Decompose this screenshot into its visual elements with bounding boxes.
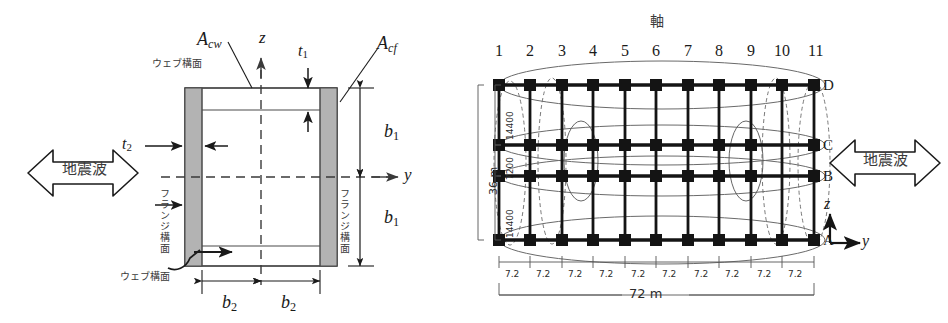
column-label-9: 9 [747,43,755,59]
label-b2-left: b2 [222,293,237,313]
label-b1-upper: b1 [384,122,399,142]
bay-width-4: 7.2 [599,270,613,279]
column-envelope-dashed [494,78,830,245]
bay-width-10: 7.2 [788,270,802,279]
figure-root: 地震波 Acw Acf t1 t2 b1 b1 b2 b2 z y ウェブ構面 … [0,0,948,323]
floor-ellipses [499,61,825,264]
flange-plane-right-label: フランジ構面 [338,188,348,266]
axis-y-label-right: y [862,233,869,249]
seismic-wave-label-left: 地震波 [62,162,107,177]
height-segment-2-label: 7200 [506,157,515,180]
column-label-10: 10 [774,43,790,59]
label-t2: t2 [122,136,132,153]
column-label-1: 1 [495,43,503,59]
web-plane-bottom-label: ウェブ構面 [120,272,170,282]
column-label-6: 6 [652,43,660,59]
width-total-label: 72 m [629,287,662,300]
row-label-D: D [823,78,834,93]
column-label-7: 7 [684,43,692,59]
web-plane-top-label: ウェブ構面 [152,59,202,69]
bay-width-1: 7.2 [505,270,519,279]
bay-width-3: 7.2 [568,270,582,279]
column-lines [499,85,814,240]
frame-grid-figure: 軸 1 2 3 4 5 6 7 8 9 10 11 D C B A 36 m 1… [474,0,948,323]
row-label-A: A [823,233,834,248]
column-label-8: 8 [715,43,723,59]
row-label-B: B [823,169,833,184]
height-segment-3-label: 14400 [506,209,515,238]
label-b1-lower: b1 [384,208,399,228]
bay-width-2: 7.2 [536,270,550,279]
label-t1: t1 [298,43,308,60]
height-total-label: 36 m [488,167,499,195]
column-label-4: 4 [589,43,597,59]
axis-z-label-left: z [259,29,266,46]
label-acw: Acw [197,30,222,50]
bay-width-8: 7.2 [725,270,739,279]
cross-section-figure: 地震波 Acw Acf t1 t2 b1 b1 b2 b2 z y ウェブ構面 … [0,0,474,323]
column-label-2: 2 [526,43,534,59]
axis-y-label-left: y [404,166,412,183]
bay-width-7: 7.2 [694,270,708,279]
leader-acf [340,48,378,102]
column-label-3: 3 [558,43,566,59]
seismic-wave-label-right: 地震波 [863,153,908,168]
label-b2-right: b2 [281,293,296,313]
axis-header-label: 軸 [650,14,664,28]
leader-acw [228,42,252,88]
bay-width-6: 7.2 [662,270,676,279]
row-label-C: C [823,138,833,153]
label-acf: Acf [377,34,397,54]
flange-plane-left-label: フランジ構面 [158,188,168,266]
axis-indicator [830,214,860,243]
axis-z-label-right: z [824,196,830,212]
height-segment-1-label: 14400 [506,111,515,140]
bay-width-9: 7.2 [757,270,771,279]
column-label-5: 5 [621,43,629,59]
bay-width-5: 7.2 [631,270,645,279]
column-label-11: 11 [808,43,823,59]
vertical-dimension-lines [478,85,501,240]
